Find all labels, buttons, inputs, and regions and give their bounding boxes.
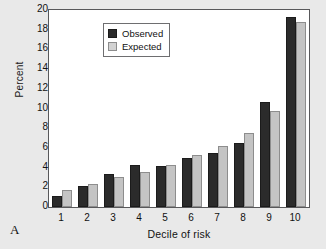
- legend-item-observed: Observed: [108, 27, 163, 40]
- y-tick-label-4: 4: [26, 162, 48, 172]
- x-tick-label-6: 6: [178, 212, 204, 223]
- x-tick-label-10: 10: [282, 212, 308, 223]
- x-tick-label-7: 7: [204, 212, 230, 223]
- y-tick-label-12: 12: [26, 83, 48, 93]
- bar-expected-decile-8: [244, 133, 254, 207]
- bar-expected-decile-2: [88, 184, 98, 207]
- legend-item-expected: Expected: [108, 40, 163, 53]
- bar-expected-decile-5: [166, 165, 176, 207]
- x-tick-label-9: 9: [256, 212, 282, 223]
- legend-swatch-expected: [108, 42, 117, 51]
- legend-label-observed: Observed: [122, 29, 163, 39]
- bar-expected-decile-1: [62, 190, 72, 207]
- chart-legend: Observed Expected: [103, 23, 170, 57]
- y-tick-label-20: 20: [26, 4, 48, 14]
- legend-label-expected: Expected: [122, 42, 162, 52]
- plot-frame: Observed Expected: [48, 9, 310, 208]
- x-tick-label-1: 1: [48, 212, 74, 223]
- x-tick-label-3: 3: [100, 212, 126, 223]
- bar-observed-decile-8: [234, 143, 244, 207]
- bar-observed-decile-9: [260, 102, 270, 207]
- y-tick-label-14: 14: [26, 63, 48, 73]
- panel-label: A: [10, 222, 19, 238]
- x-tick-label-5: 5: [152, 212, 178, 223]
- bar-observed-decile-3: [104, 174, 114, 207]
- y-axis-tick-labels: 02468101214161820: [22, 9, 48, 208]
- x-tick-label-8: 8: [230, 212, 256, 223]
- y-tick-label-6: 6: [26, 142, 48, 152]
- bar-observed-decile-6: [182, 158, 192, 207]
- bar-observed-decile-7: [208, 153, 218, 207]
- bar-observed-decile-1: [52, 196, 62, 207]
- bar-expected-decile-3: [114, 177, 124, 207]
- bar-expected-decile-6: [192, 155, 202, 207]
- y-tick-label-0: 0: [26, 201, 48, 211]
- bar-expected-decile-7: [218, 146, 228, 207]
- bar-observed-decile-10: [286, 17, 296, 207]
- y-tick-label-2: 2: [26, 181, 48, 191]
- figure-background: Percent 02468101214161820 Observed Expec…: [0, 0, 326, 249]
- x-tick-label-2: 2: [74, 212, 100, 223]
- x-axis-title: Decile of risk: [48, 228, 310, 240]
- bar-observed-decile-4: [130, 165, 140, 207]
- y-tick-label-8: 8: [26, 122, 48, 132]
- bar-observed-decile-2: [78, 186, 88, 207]
- bar-expected-decile-10: [296, 22, 306, 207]
- plot-area: [49, 10, 309, 207]
- y-tick-label-16: 16: [26, 43, 48, 53]
- figure-panel: Percent 02468101214161820 Observed Expec…: [0, 0, 326, 249]
- x-tick-label-4: 4: [126, 212, 152, 223]
- bar-expected-decile-4: [140, 172, 150, 207]
- y-tick-label-10: 10: [26, 103, 48, 113]
- bar-expected-decile-9: [270, 111, 280, 207]
- y-tick-label-18: 18: [26, 24, 48, 34]
- bar-observed-decile-5: [156, 166, 166, 207]
- legend-swatch-observed: [108, 29, 117, 38]
